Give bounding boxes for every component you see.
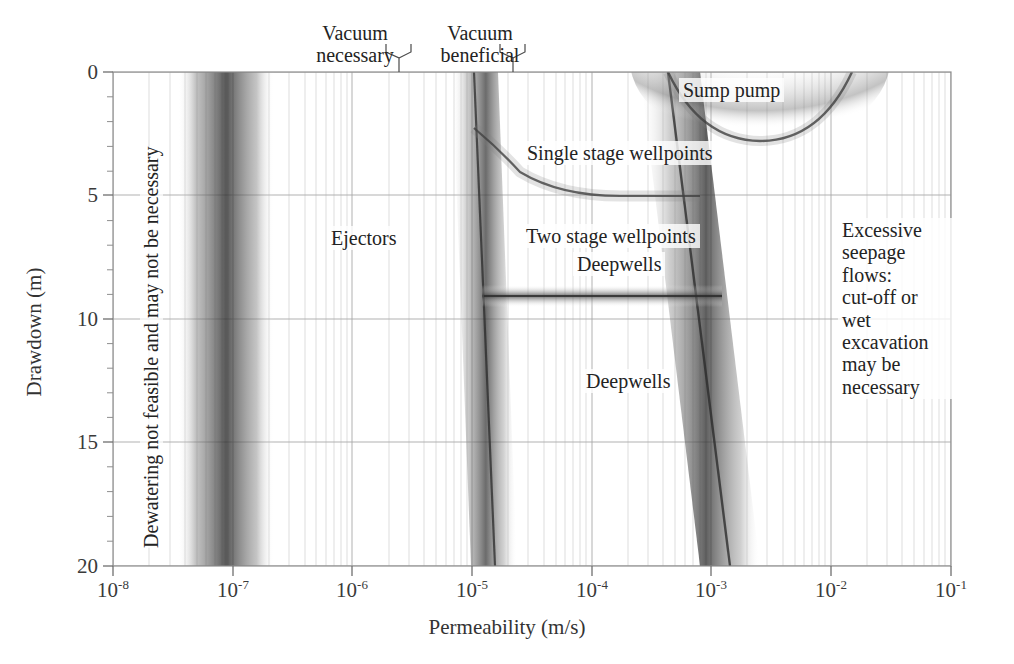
x-tick-1e-2: 10-2	[815, 580, 847, 601]
callout-vacuum-necessary-line2: necessary	[289, 44, 421, 66]
callout-vacuum-necessary: Vacuum necessary	[289, 22, 421, 67]
x-tick-1e-1: 10-1	[935, 580, 967, 601]
callout-vacuum-beneficial-line2: beneficial	[414, 44, 546, 66]
x-tick-1e-7: 10-7	[217, 580, 249, 601]
callout-vacuum-necessary-line1: Vacuum	[289, 22, 421, 44]
x-tick-1e-3: 10-3	[695, 580, 727, 601]
y-tick-20: 20	[62, 556, 98, 577]
band-ejector-wellpoint	[452, 72, 517, 566]
excessive-line1: Excessive	[842, 219, 960, 241]
region-label-single-stage-wellpoints: Single stage wellpoints	[523, 141, 717, 165]
excessive-line4: cut-off or	[842, 286, 960, 308]
y-axis-title: Drawdown (m)	[22, 268, 47, 397]
y-tick-0: 0	[62, 62, 98, 83]
region-label-sump-pump: Sump pump	[679, 78, 784, 102]
callout-vacuum-beneficial-line1: Vacuum	[414, 22, 546, 44]
region-label-deepwells-upper: Deepwells	[573, 252, 665, 276]
excessive-line7: may be	[842, 353, 960, 375]
region-label-dewatering-not-feasible: Dewatering not feasible and may not be n…	[140, 146, 163, 548]
excessive-line8: necessary	[842, 376, 960, 398]
excessive-line5: wet	[842, 309, 960, 331]
y-tick-5: 5	[62, 185, 98, 206]
y-tick-15: 15	[62, 432, 98, 453]
region-label-two-stage-wellpoints: Two stage wellpoints	[522, 224, 700, 248]
x-tick-1e-8: 10-8	[97, 580, 129, 601]
y-tick-10: 10	[62, 309, 98, 330]
x-tick-1e-4: 10-4	[576, 580, 608, 601]
x-major-ticks	[113, 566, 951, 576]
region-label-ejectors: Ejectors	[327, 226, 401, 250]
x-tick-1e-6: 10-6	[336, 580, 368, 601]
x-axis-title: Permeability (m/s)	[429, 615, 586, 640]
excessive-line3: flows:	[842, 264, 960, 286]
dewatering-line1: Dewatering not feasible and may not be n…	[140, 146, 163, 548]
excessive-line2: seepage	[842, 241, 960, 263]
band-infeasible	[178, 72, 274, 566]
excessive-line6: excavation	[842, 331, 960, 353]
callout-vacuum-beneficial: Vacuum beneficial	[414, 22, 546, 67]
x-tick-1e-5: 10-5	[456, 580, 488, 601]
region-label-excessive-seepage: Excessive seepage flows: cut-off or wet …	[838, 218, 964, 399]
dewatering-selection-chart: 10-8 10-7 10-6 10-5 10-4 10-3 10-2 10-1 …	[0, 0, 1014, 664]
region-label-deepwells-lower: Deepwells	[582, 369, 674, 393]
